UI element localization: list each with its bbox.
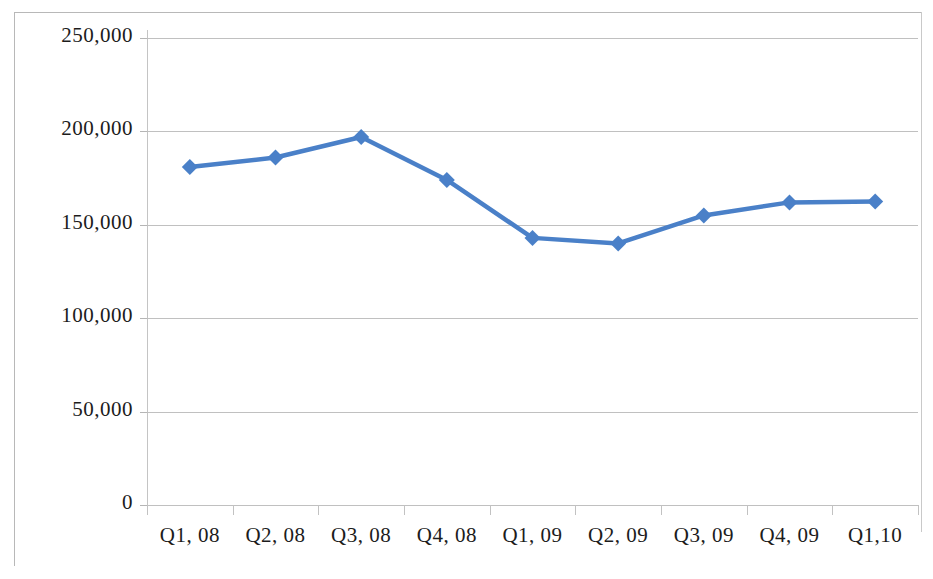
y-axis-tick [140,225,147,226]
line-chart: 050,000100,000150,000200,000250,000 Q1, … [0,0,933,579]
data-point-marker [268,150,284,166]
data-point-marker [353,129,369,145]
data-point-marker [782,194,798,210]
y-axis-tick [140,38,147,39]
y-axis-tick [140,131,147,132]
data-series-layer [0,0,933,579]
data-point-marker [182,159,198,175]
y-axis-tick [140,318,147,319]
data-point-marker [610,235,626,251]
data-point-marker [696,207,712,223]
y-axis-tick [140,412,147,413]
series-line [190,137,875,243]
y-axis-tick [140,505,147,506]
data-point-marker [867,193,883,209]
